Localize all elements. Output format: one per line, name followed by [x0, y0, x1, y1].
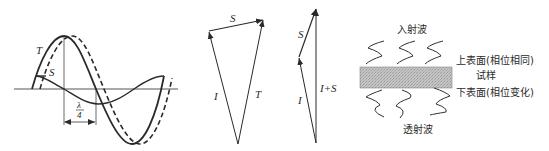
vector-S: [209, 20, 263, 31]
label-I: I: [297, 94, 303, 106]
vector-I: [209, 32, 238, 144]
label-S: S: [49, 66, 55, 78]
incident-wave-1: [366, 41, 384, 64]
label-T: T: [36, 44, 43, 56]
incident-wave-3: [425, 41, 443, 64]
vector-T: [238, 20, 263, 144]
label-S: S: [298, 28, 304, 40]
label-S: S: [230, 12, 236, 24]
incident-wave-2: [397, 41, 415, 64]
label-bottom-surface: 下表面(相位变化): [456, 86, 534, 98]
vector-sum-panel: S I I+S: [297, 9, 337, 143]
transmitted-wave-T: [32, 36, 164, 144]
transmitted-wave-3: [430, 88, 450, 115]
label-I: I: [213, 90, 219, 102]
diagram-canvas: T S λ 4 S I T S I I+S 入射波 上表面(相位相同): [0, 0, 549, 151]
sample-panel: 入射波 上表面(相位相同) 试样 下表面(相位变化) 透射波: [360, 23, 534, 135]
vector-triangle-panel: S I T: [209, 12, 263, 144]
reference-wave-dashed: [40, 36, 172, 144]
label-transmitted-wave: 透射波: [403, 123, 433, 135]
label-lambda-denominator: 4: [77, 110, 82, 120]
label-sample: 试样: [476, 69, 496, 81]
transmitted-wave-2: [396, 90, 411, 118]
label-I-plus-S: I+S: [319, 82, 337, 94]
label-top-surface: 上表面(相位相同): [456, 54, 534, 66]
wave-panel: T S λ 4: [14, 36, 178, 144]
label-T: T: [255, 88, 262, 100]
transmitted-wave-1: [366, 90, 384, 117]
sample-slab: [360, 67, 452, 88]
label-incident-wave: 入射波: [397, 23, 427, 35]
label-lambda-numerator: λ: [76, 100, 81, 110]
